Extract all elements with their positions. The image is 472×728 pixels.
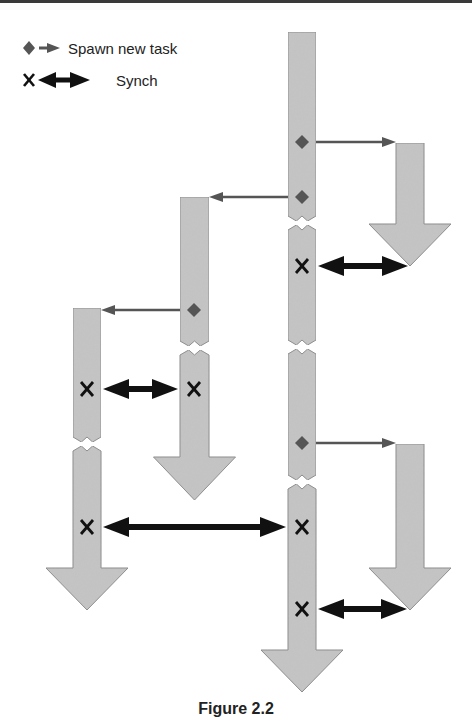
- task-arrow-segment: [369, 143, 451, 266]
- synch-arrowhead-left-icon: [318, 256, 344, 276]
- spawn-diamond-arrow-icon: [22, 38, 62, 58]
- spawn-arrowhead-icon: [382, 438, 396, 448]
- task-child-left: [46, 308, 128, 610]
- task-bar-segment: [180, 197, 209, 346]
- tasks-layer: [46, 32, 451, 692]
- legend-spawn: Spawn new task: [22, 38, 177, 58]
- synch-arrowhead-left-icon: [103, 517, 129, 537]
- task-arrow-segment: [261, 484, 343, 692]
- task-bar-segment: [73, 308, 101, 442]
- task-bar-segment: [288, 225, 316, 345]
- task-arrow-segment: [369, 444, 451, 610]
- spawn-arrowhead-icon: [209, 192, 223, 202]
- synch-x-double-arrow-icon: [22, 69, 106, 91]
- synch-link: [81, 517, 308, 537]
- synch-arrowhead-left-icon: [103, 379, 129, 399]
- spawn-arrowhead-icon: [101, 305, 115, 315]
- legend-synch: Synch: [22, 70, 158, 90]
- task-child-top-right: [369, 143, 451, 266]
- task-bar-segment: [288, 349, 316, 480]
- task-arrow-segment: [154, 350, 236, 500]
- figure-caption: Figure 2.2: [0, 700, 472, 718]
- spawn-arrowhead-icon: [382, 137, 396, 147]
- spawns-layer: [101, 135, 396, 450]
- synch-arrowhead-left-icon: [318, 599, 344, 619]
- legend-spawn-label: Spawn new task: [68, 40, 177, 57]
- task-spawn-sync-diagram: [0, 0, 472, 728]
- legend-synch-label: Synch: [116, 72, 158, 89]
- task-child-middle: [154, 197, 236, 500]
- task-child-bottom-right: [369, 444, 451, 610]
- synch-arrowhead-right-icon: [152, 379, 178, 399]
- synch-arrowhead-right-icon: [260, 517, 286, 537]
- task-main: [261, 32, 343, 692]
